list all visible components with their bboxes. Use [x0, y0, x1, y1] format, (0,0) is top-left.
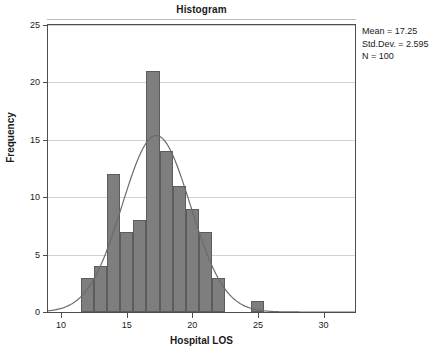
histogram-bar: [81, 278, 94, 312]
y-tick-label: 10: [18, 192, 40, 202]
histogram-bar: [186, 209, 199, 312]
y-tick-label: 20: [18, 77, 40, 87]
histogram-bar: [199, 232, 212, 312]
x-tick-mark: [127, 313, 128, 318]
histogram-bar: [212, 278, 225, 312]
plot-inner: [48, 25, 355, 312]
histogram-bar: [251, 301, 264, 312]
plot-area: [47, 24, 356, 313]
gridline: [48, 82, 355, 83]
title-divider: [47, 19, 356, 20]
histogram-bar: [133, 220, 146, 312]
histogram-figure: Histogram Frequency Hospital LOS 0510152…: [0, 0, 448, 354]
histogram-bar: [120, 232, 133, 312]
y-axis-title: Frequency: [5, 93, 16, 183]
y-tick-label: 5: [18, 250, 40, 260]
y-tick-label: 25: [18, 20, 40, 30]
x-tick-label: 20: [177, 320, 207, 330]
y-tick-label: 15: [18, 135, 40, 145]
x-tick-mark: [192, 313, 193, 318]
histogram-bar: [107, 174, 120, 312]
x-tick-label: 10: [46, 320, 76, 330]
x-tick-label: 15: [112, 320, 142, 330]
histogram-bar: [173, 186, 186, 312]
histogram-bar: [146, 71, 159, 312]
x-tick-mark: [61, 313, 62, 318]
stat-n: N = 100: [362, 50, 429, 63]
histogram-bar: [160, 151, 173, 312]
chart-title: Histogram: [47, 4, 356, 15]
y-tick-label: 0: [18, 307, 40, 317]
x-tick-label: 30: [309, 320, 339, 330]
gridline: [48, 25, 355, 26]
x-tick-mark: [324, 313, 325, 318]
gridline: [48, 140, 355, 141]
stat-std-dev: Std.Dev. = 2.595: [362, 38, 429, 51]
x-tick-label: 25: [243, 320, 273, 330]
histogram-bar: [94, 266, 107, 312]
stat-mean: Mean = 17.25: [362, 25, 429, 38]
x-axis-title: Hospital LOS: [47, 335, 356, 346]
gridline: [48, 197, 355, 198]
x-tick-mark: [258, 313, 259, 318]
statistics-annotation: Mean = 17.25 Std.Dev. = 2.595 N = 100: [362, 25, 429, 63]
